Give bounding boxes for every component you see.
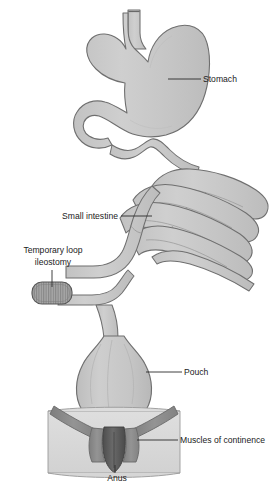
anatomy-diagram: Stomach Small intestine Temporary loop i… — [0, 0, 273, 489]
label-muscles-of-continence: Muscles of continence — [180, 435, 265, 445]
label-temporary-loop-ileostomy-line2: ileostomy — [35, 257, 72, 267]
label-anus: Anus — [107, 473, 127, 483]
label-small-intestine: Small intestine — [62, 211, 118, 221]
label-temporary-loop-ileostomy-line1: Temporary loop — [23, 245, 82, 255]
label-stomach: Stomach — [203, 74, 237, 84]
diagram-page: Stomach Small intestine Temporary loop i… — [0, 0, 273, 489]
label-pouch: Pouch — [184, 367, 209, 377]
